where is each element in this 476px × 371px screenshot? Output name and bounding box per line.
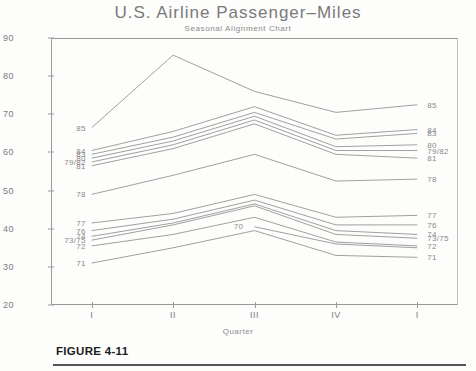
y-axis-tick-label: 80 [3,71,43,81]
series-line [92,154,418,194]
series-label-left: 72 [34,241,86,250]
y-axis-tick-label: 70 [3,109,43,119]
series-label-right: 71 [427,253,437,262]
y-axis-tick-label: 20 [3,300,43,310]
series-label-right: 83 [427,129,437,138]
series-label-left: 81 [34,161,86,170]
series-label-right: 85 [427,100,437,109]
x-axis-tick-mark [173,302,174,308]
figure-page: U.S. Airline Passenger–Miles Seasonal Al… [0,0,476,371]
x-axis-tick-label: I [416,310,419,320]
series-label-right: 77 [427,211,437,220]
series-label-inline: 70 [234,221,244,230]
series-line [92,204,418,236]
series-line [92,200,418,231]
y-axis-tick-mark [48,38,54,39]
series-line [92,206,418,240]
plot-area [51,38,458,305]
x-axis-tick-label: III [250,310,259,320]
chart-title: U.S. Airline Passenger–Miles [0,3,476,23]
chart-subtitle: Seasonal Alignment Chart [0,24,476,33]
y-axis-tick-mark [48,114,54,115]
series-label-right: 76 [427,220,437,229]
caption-rule [53,364,466,366]
y-axis-tick-label: 90 [3,33,43,43]
x-axis-tick-label: II [170,310,176,320]
x-axis-title: Quarter [0,327,476,336]
x-axis-tick-mark [92,302,93,308]
figure-caption: FIGURE 4-11 [56,345,128,357]
y-axis-tick-mark [48,305,54,306]
series-line [92,217,418,246]
series-line [92,55,418,127]
series-line [92,231,418,263]
series-line [92,194,418,223]
x-axis-tick-label: IV [331,310,341,320]
series-label-right: 72 [427,241,437,250]
x-axis-tick-mark [336,302,337,308]
series-label-left: 71 [34,259,86,268]
x-axis-tick-mark [417,302,418,308]
series-label-left: 78 [34,190,86,199]
series-line [92,124,418,166]
y-axis-tick-mark [48,76,54,77]
series-label-right: 78 [427,175,437,184]
x-axis-tick-label: I [90,310,93,320]
series-label-left: 85 [34,123,86,132]
series-lines [51,38,458,305]
x-axis-tick-mark [255,302,256,308]
series-label-right: 81 [427,154,437,163]
